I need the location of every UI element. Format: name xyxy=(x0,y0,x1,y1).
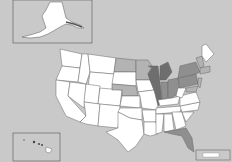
state-mississippi xyxy=(156,114,164,134)
state-utah xyxy=(84,84,100,104)
map-svg xyxy=(0,0,232,162)
state-michigan xyxy=(160,62,172,80)
state-florida xyxy=(164,128,194,152)
state-oregon xyxy=(56,66,80,82)
state-maryland xyxy=(186,86,198,92)
state-kansas xyxy=(120,96,140,108)
state-washington xyxy=(60,49,82,68)
state-arkansas xyxy=(142,110,156,122)
state-new-york xyxy=(178,62,200,78)
state-new-mexico xyxy=(98,104,120,128)
us-choropleth-map xyxy=(0,0,232,162)
alaska-inset xyxy=(13,0,92,43)
state-new-jersey xyxy=(198,78,202,88)
state-north-dakota xyxy=(114,58,136,72)
state-maine xyxy=(202,44,214,62)
state-south-dakota xyxy=(112,72,136,86)
hawaii-inset xyxy=(13,133,60,161)
state-colorado xyxy=(98,88,122,106)
mainland-us xyxy=(56,44,214,152)
state-alabama xyxy=(164,114,174,132)
legend xyxy=(196,150,230,160)
state-indiana xyxy=(161,82,168,100)
state-montana xyxy=(88,54,116,74)
